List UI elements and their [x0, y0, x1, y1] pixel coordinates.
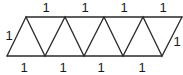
triangle-strip-diagram: 1 1 1 1 1 1 1 1 1 1: [0, 0, 183, 75]
zigzag-edges: [7, 17, 182, 56]
right-label: 1: [173, 34, 180, 49]
top-label-4: 1: [159, 0, 166, 15]
bottom-label-1: 1: [20, 60, 27, 75]
bottom-label-3: 1: [97, 60, 104, 75]
top-label-2: 1: [81, 0, 88, 15]
top-label-3: 1: [120, 0, 127, 15]
left-label: 1: [5, 28, 12, 43]
top-label-1: 1: [42, 0, 49, 15]
bottom-label-2: 1: [59, 60, 66, 75]
bottom-label-4: 1: [138, 60, 145, 75]
